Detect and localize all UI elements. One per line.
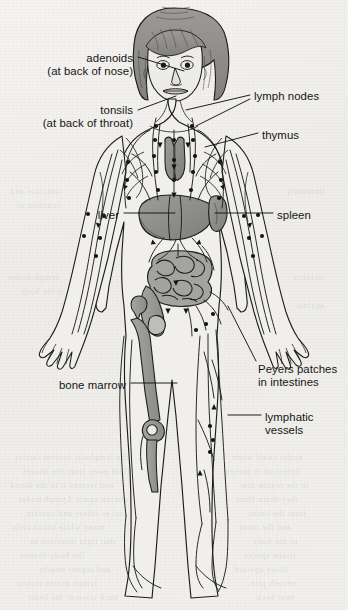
hip-socket xyxy=(148,316,165,335)
label-line2: (at back of throat) xyxy=(43,117,133,130)
label-peyers-patches: Peyers patchesin intestines xyxy=(258,363,337,388)
label-line1: Peyers patches xyxy=(258,363,337,376)
label-adenoids: adenoids(at back of nose) xyxy=(47,52,133,77)
label-line1: tonsils xyxy=(43,104,133,117)
lymphatic-system-figure: the lymphatic system carriesfluid away f… xyxy=(0,0,348,610)
peyers-leader xyxy=(228,306,256,361)
label-spleen: spleen xyxy=(277,209,311,222)
label-liver: liver xyxy=(98,209,119,222)
label-line1: lymphatic xyxy=(265,411,314,424)
label-lymphatic-vessels: lymphaticvessels xyxy=(265,411,314,436)
label-line1: bone marrow xyxy=(59,379,126,392)
label-bone-marrow: bone marrow xyxy=(59,379,126,392)
label-line2: vessels xyxy=(265,424,314,437)
label-line2: (at back of nose) xyxy=(47,65,133,78)
label-lymph-nodes: lymph nodes xyxy=(254,90,319,103)
lymph-nodes-leader-lower xyxy=(196,99,250,126)
label-thymus: thymus xyxy=(262,129,299,142)
label-line1: spleen xyxy=(277,209,311,222)
label-line2: in intestines xyxy=(258,376,337,389)
knee-cavity xyxy=(147,425,157,435)
label-line1: liver xyxy=(98,209,119,222)
label-line1: adenoids xyxy=(47,52,133,65)
label-line1: lymph nodes xyxy=(254,90,319,103)
label-line1: thymus xyxy=(262,129,299,142)
label-tonsils: tonsils(at back of throat) xyxy=(43,104,133,129)
head-group xyxy=(133,7,229,101)
